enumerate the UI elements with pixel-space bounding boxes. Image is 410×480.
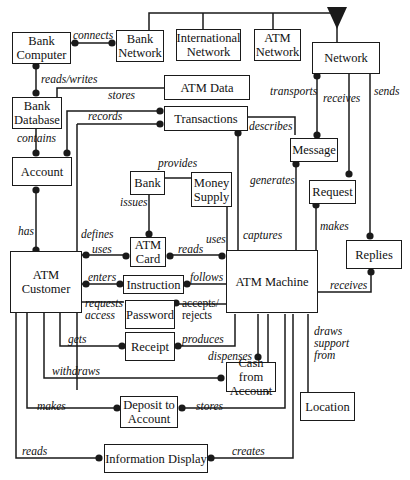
rel-follows: follows (190, 271, 223, 283)
rel-gets: gets (68, 333, 87, 345)
entity-instruction: Instruction (123, 275, 184, 294)
rel-requests-access: requests access (85, 297, 123, 321)
rel-connects: connects (73, 29, 113, 41)
rel-provides: provides (158, 157, 197, 169)
rel-dispenses: dispenses (208, 350, 252, 362)
rel-enters: enters (88, 271, 116, 283)
rel-describes: describes (249, 120, 292, 132)
entity-cash-from-account: Cash from Account (226, 362, 276, 392)
rel-stores-atm-data: stores (108, 89, 135, 101)
rel-uses-card: uses (92, 243, 112, 255)
entity-bank: Bank (130, 171, 165, 195)
entity-transactions: Transactions (164, 106, 248, 131)
entity-request: Request (309, 180, 356, 204)
rel-receives-replies: receives (330, 279, 367, 291)
entity-location: Location (300, 392, 355, 421)
entity-password: Password (125, 300, 175, 329)
rel-records: records (88, 110, 122, 122)
entity-bank-network: Bank Network (116, 30, 164, 62)
entity-international-network: International Network (176, 29, 241, 61)
entity-information-display: Information Display (104, 444, 208, 473)
rel-sends: sends (374, 85, 400, 97)
entity-bank-database: Bank Database (12, 97, 62, 129)
rel-reads-card: reads (178, 243, 203, 255)
rel-contains: contains (17, 132, 56, 144)
rel-has: has (18, 225, 34, 237)
rel-reads-display: reads (22, 445, 47, 457)
rel-transports: transports (270, 85, 317, 97)
entity-account: Account (12, 157, 72, 186)
rel-makes-request: makes (320, 220, 349, 232)
entity-bank-computer: Bank Computer (12, 32, 71, 64)
rel-draws-support-from: draws support from (314, 325, 349, 361)
entity-replies: Replies (346, 240, 402, 269)
rel-withdraws: withdraws (52, 365, 100, 377)
rel-receives-network: receives (323, 92, 360, 104)
entity-receipt: Receipt (125, 332, 175, 361)
entity-atm-network: ATM Network (254, 29, 301, 61)
entity-message: Message (290, 138, 338, 162)
rel-reads-writes: reads/writes (41, 73, 97, 85)
entity-atm-customer: ATM Customer (10, 251, 82, 313)
rel-captures: captures (243, 229, 282, 241)
rel-stores-deposit: stores (196, 400, 223, 412)
entity-money-supply: Money Supply (191, 172, 232, 207)
rel-defines: defines (81, 228, 114, 240)
entity-atm-machine: ATM Machine (226, 250, 318, 313)
rel-generates: generates (250, 174, 295, 186)
entity-atm-card: ATM Card (130, 237, 166, 267)
rel-accepts-rejects: accepts/ rejects (182, 297, 219, 321)
entity-deposit-to-account: Deposit to Account (120, 396, 178, 428)
entity-network: Network (312, 42, 380, 74)
entity-atm-data: ATM Data (164, 75, 250, 100)
rel-makes-deposit: makes (37, 400, 66, 412)
rel-uses-money: uses (206, 233, 226, 245)
rel-creates: creates (232, 445, 265, 457)
rel-produces: produces (182, 333, 224, 345)
rel-issues: issues (120, 196, 147, 208)
